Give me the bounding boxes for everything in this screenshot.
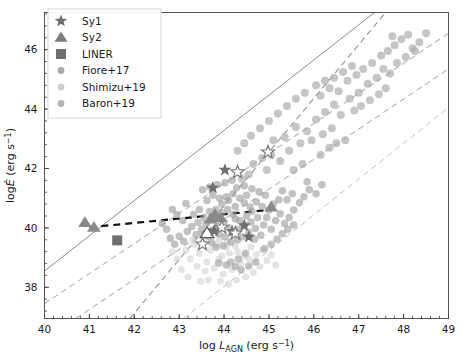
point-Fiore+17 xyxy=(281,133,289,141)
point-Baron+19 xyxy=(290,206,298,214)
point-Baron+19 xyxy=(275,196,283,204)
point-Baron+19 xyxy=(296,199,304,207)
point-Baron+19 xyxy=(245,262,253,270)
point-Baron+19 xyxy=(236,194,244,202)
x-tick-label: 44 xyxy=(217,323,231,335)
point-Shimizu+19 xyxy=(205,276,212,283)
point-Fiore+17 xyxy=(368,59,376,67)
y-title-symbol: Ė xyxy=(4,179,17,186)
point-Baron+19 xyxy=(194,219,202,227)
point-Fiore+17 xyxy=(404,31,412,39)
x-tick-label: 40 xyxy=(38,323,51,335)
point-Sy1-filled xyxy=(218,163,231,175)
point-Shimizu+19 xyxy=(247,244,254,251)
point-Baron+19 xyxy=(175,232,183,240)
y-tick-label: 42 xyxy=(24,162,37,174)
point-Baron+19 xyxy=(235,255,243,263)
point-Fiore+17 xyxy=(382,84,390,92)
point-Fiore+17 xyxy=(386,69,394,77)
point-Shimizu+19 xyxy=(234,248,241,255)
point-Shimizu+19 xyxy=(272,262,279,269)
point-Fiore+17 xyxy=(346,95,354,103)
point-Baron+19 xyxy=(241,182,249,190)
point-Baron+19 xyxy=(221,233,229,241)
point-Fiore+17 xyxy=(285,147,293,155)
y-axis-title: logĖ (erg s−1) xyxy=(4,128,18,203)
point-Fiore+17 xyxy=(375,90,383,98)
circle-icon xyxy=(58,67,65,74)
point-Fiore+17 xyxy=(276,157,284,165)
point-Shimizu+19 xyxy=(225,281,232,288)
point-Shimizu+19 xyxy=(268,251,275,258)
point-Baron+19 xyxy=(273,235,281,243)
point-Fiore+17 xyxy=(341,136,349,144)
point-Fiore+17 xyxy=(384,47,392,55)
point-Baron+19 xyxy=(243,191,251,199)
point-Fiore+17 xyxy=(312,81,320,89)
y-tick-label: 40 xyxy=(24,222,37,234)
point-Fiore+17 xyxy=(348,62,356,70)
point-Baron+19 xyxy=(190,211,198,219)
point-Baron+19 xyxy=(232,203,240,211)
circle-icon xyxy=(58,84,65,91)
y-title-post: ) xyxy=(4,128,17,132)
point-Fiore+17 xyxy=(373,74,381,82)
point-Fiore+17 xyxy=(326,84,334,92)
point-Fiore+17 xyxy=(411,47,419,55)
point-Baron+19 xyxy=(163,226,171,234)
point-Fiore+17 xyxy=(330,101,338,109)
point-Fiore+17 xyxy=(292,123,300,131)
point-Fiore+17 xyxy=(303,127,311,135)
point-Fiore+17 xyxy=(317,151,325,159)
square-icon xyxy=(56,49,66,59)
point-Baron+19 xyxy=(290,221,298,229)
point-Baron+19 xyxy=(253,198,261,206)
y-title-unit: (erg s xyxy=(4,144,17,179)
point-Baron+19 xyxy=(184,228,192,236)
point-Shimizu+19 xyxy=(217,278,224,285)
point-Fiore+17 xyxy=(330,74,338,82)
point-Baron+19 xyxy=(279,187,287,195)
point-Baron+19 xyxy=(233,184,241,192)
point-Fiore+17 xyxy=(319,130,327,138)
point-Fiore+17 xyxy=(391,41,399,49)
point-Fiore+17 xyxy=(245,170,253,178)
point-Baron+19 xyxy=(158,220,166,228)
point-Fiore+17 xyxy=(388,32,396,40)
point-Baron+19 xyxy=(255,188,263,196)
point-Baron+19 xyxy=(223,193,231,201)
point-Baron+19 xyxy=(215,259,223,267)
y-title-sup: −1 xyxy=(4,132,13,144)
point-Fiore+17 xyxy=(265,117,273,125)
point-Baron+19 xyxy=(166,235,174,243)
point-Baron+19 xyxy=(199,186,207,194)
point-Fiore+17 xyxy=(359,65,367,73)
legend-label-Shimizu19: Shimizu+19 xyxy=(82,81,146,93)
x-tick-label: 43 xyxy=(172,323,185,335)
point-Fiore+17 xyxy=(337,111,345,119)
point-Baron+19 xyxy=(232,263,240,271)
point-Fiore+17 xyxy=(269,136,277,144)
point-Fiore+17 xyxy=(355,89,363,97)
legend-item-LINER[interactable]: LINER xyxy=(56,48,113,60)
point-Baron+19 xyxy=(252,258,259,266)
point-Fiore+17 xyxy=(344,77,352,85)
point-Fiore+17 xyxy=(379,65,387,73)
point-Baron+19 xyxy=(262,191,270,199)
point-Fiore+17 xyxy=(308,136,316,144)
point-Baron+19 xyxy=(258,203,266,211)
point-Fiore+17 xyxy=(402,53,410,61)
legend-label-Sy2: Sy2 xyxy=(82,31,102,43)
point-Baron+19 xyxy=(306,186,314,194)
point-Fiore+17 xyxy=(296,139,304,147)
point-Fiore+17 xyxy=(328,124,336,132)
y-tick-label: 44 xyxy=(24,103,38,115)
point-Shimizu+19 xyxy=(226,250,233,257)
point-Fiore+17 xyxy=(247,132,255,140)
x-tick-label: 48 xyxy=(397,323,410,335)
legend: Sy1Sy2LINERFiore+17Shimizu+19Baron+19 xyxy=(48,9,161,118)
point-Baron+19 xyxy=(223,261,231,269)
point-Baron+19 xyxy=(289,190,297,198)
point-Shimizu+19 xyxy=(233,276,240,283)
point-Fiore+17 xyxy=(249,160,257,168)
